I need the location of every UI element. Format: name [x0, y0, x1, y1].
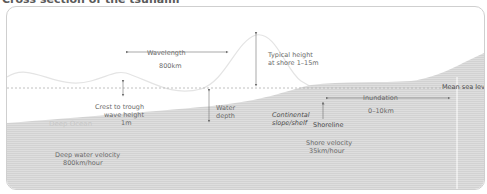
mean-sea-level-label: Mean sea level [442, 83, 485, 91]
deep-ocean-label: Deep Ocean [49, 120, 92, 128]
wavelength-label: Wavelength [147, 49, 186, 57]
diagram-frame: Wavelength 800km Typical height at shore… [6, 6, 485, 190]
typical-height-label: Typical height [268, 51, 313, 59]
shoreline-label: Shoreline [313, 121, 343, 129]
typical-height-value: at shore 1–15m [268, 59, 319, 67]
water-depth-label-2: depth [216, 112, 235, 120]
shore-velocity-value: 35km/hour [309, 147, 344, 155]
inundation-label: Inundation [363, 94, 398, 102]
continental-label: Continental [272, 111, 310, 119]
water-depth-label: Water [216, 104, 235, 112]
wave-height-value: 1m [121, 119, 131, 127]
wave-height-label: wave height [104, 111, 144, 119]
deep-velocity-label: Deep water velocity [55, 151, 120, 159]
slope-shelf-label: slope/shelf [272, 119, 307, 127]
crest-to-trough-label: Crest to trough [95, 103, 144, 111]
inundation-value: 0–10km [368, 107, 394, 115]
shore-velocity-label: Shore velocity [306, 139, 352, 147]
deep-velocity-value: 800km/hour [63, 159, 103, 167]
wavelength-value: 800km [159, 62, 182, 70]
